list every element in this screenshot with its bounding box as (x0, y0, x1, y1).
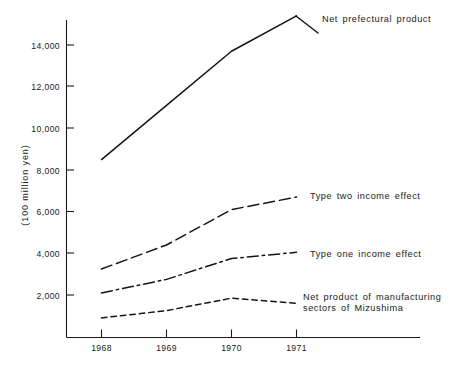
x-axis-tick-labels: 1968 1969 1970 1971 (91, 343, 307, 353)
leader-line-net-prefectural-product (296, 16, 318, 33)
series-label-mizushima-line2: sectors of Mizushima (303, 303, 404, 313)
series-path-mizushima (102, 298, 297, 318)
x-axis-ticks (102, 330, 297, 338)
series-lines (102, 16, 297, 318)
x-tick-label-1971: 1971 (286, 343, 307, 353)
y-axis-title: (100 million yen) (20, 144, 30, 225)
x-tick-label-1968: 1968 (91, 343, 112, 353)
series-path-net-prefectural-product (102, 16, 297, 160)
y-tick-label-8000: 8,000 (36, 166, 60, 176)
y-tick-label-14000: 14,000 (31, 41, 60, 51)
y-tick-label-10000: 10,000 (31, 124, 60, 134)
series-path-type-two-income-effect (102, 197, 297, 269)
chart-canvas: 14,000 12,000 10,000 8,000 6,000 4,000 2… (0, 0, 460, 366)
y-tick-label-2000: 2,000 (36, 291, 60, 301)
y-axis-ticks (67, 45, 75, 295)
series-label-net-prefectural-product: Net prefectural product (322, 14, 431, 24)
x-tick-label-1969: 1969 (156, 343, 177, 353)
series-label-mizushima-line1: Net product of manufacturing (303, 292, 441, 302)
y-tick-label-12000: 12,000 (31, 82, 60, 92)
series-label-type-one-income-effect: Type one income effect (310, 249, 421, 259)
x-tick-label-1970: 1970 (221, 343, 242, 353)
series-path-type-one-income-effect (102, 252, 297, 293)
y-axis-tick-labels: 14,000 12,000 10,000 8,000 6,000 4,000 2… (31, 41, 60, 301)
y-tick-label-4000: 4,000 (36, 249, 60, 259)
y-tick-label-6000: 6,000 (36, 207, 60, 217)
line-chart: 14,000 12,000 10,000 8,000 6,000 4,000 2… (0, 0, 460, 366)
series-label-type-two-income-effect: Type two income effect (310, 191, 420, 201)
